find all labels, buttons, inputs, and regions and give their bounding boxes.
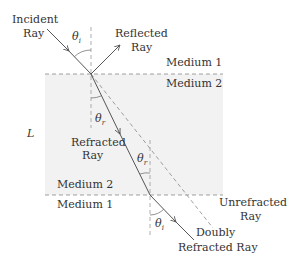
doubly-label-1: Doubly xyxy=(196,226,236,239)
incident-label-2: Ray xyxy=(23,27,45,40)
doubly-label-2: Refracted Ray xyxy=(178,241,258,254)
theta-i-bottom: θi xyxy=(155,217,164,232)
reflected-label-1: Reflected xyxy=(115,27,168,40)
refracted-label-1: Refracted xyxy=(71,136,126,149)
unrefracted-label-2: Ray xyxy=(240,210,262,223)
reflected-ray xyxy=(91,45,120,74)
theta-i-top: θi xyxy=(72,30,81,45)
unrefracted-label-1: Unrefracted xyxy=(219,196,287,209)
thickness-label: L xyxy=(26,127,34,140)
refracted-label-2: Ray xyxy=(82,149,104,162)
refraction-diagram: Incident Ray Reflected Ray Medium 1 Medi… xyxy=(0,0,294,270)
medium2-top-label: Medium 2 xyxy=(166,77,222,90)
medium1-top-label: Medium 1 xyxy=(166,56,222,69)
medium1-bottom-label: Medium 1 xyxy=(57,198,113,211)
reflected-label-2: Ray xyxy=(131,41,153,54)
medium2-bottom-label: Medium 2 xyxy=(57,178,113,191)
theta-i-bottom-arc xyxy=(150,209,164,215)
theta-i-top-arc xyxy=(74,50,91,57)
incident-ray xyxy=(47,29,69,51)
medium-2-slab xyxy=(45,74,223,195)
incident-label-1: Incident xyxy=(12,13,59,26)
doubly-refracted-ray xyxy=(150,195,176,222)
